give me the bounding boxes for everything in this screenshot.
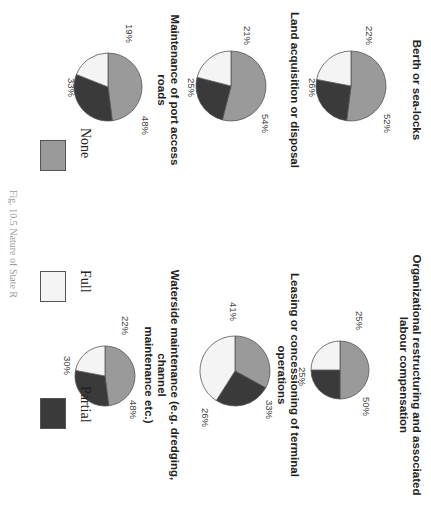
- pct-none: 48%: [128, 400, 139, 419]
- pie-panel-roads: Maintenance of port access roads 48% 19%…: [51, 6, 181, 174]
- pct-partial: 25%: [186, 78, 197, 97]
- legend-swatch-none: [40, 140, 66, 171]
- pct-full: 22%: [364, 26, 375, 45]
- pct-partial: 33%: [66, 78, 77, 97]
- pie-chart: [310, 340, 370, 400]
- panel-title: Leasing or concessioning of terminal ope…: [275, 250, 301, 500]
- pct-none: 50%: [361, 397, 372, 416]
- pie-chart: [195, 50, 267, 122]
- pct-partial: 26%: [307, 78, 318, 97]
- chart-canvas: Berth or sea-locks 52% 22% 26% Organizat…: [0, 0, 431, 506]
- legend-label-partial: Partial: [77, 386, 93, 423]
- pie-slice-none: [105, 346, 135, 406]
- figure-caption: Fig. 10.5 Nature of State R: [8, 190, 19, 298]
- pie-slice-partial: [311, 370, 340, 399]
- pct-full: 22%: [120, 316, 131, 335]
- pct-partial: 26%: [200, 408, 211, 427]
- pie-panel-leasing: Leasing or concessioning of terminal ope…: [171, 250, 301, 500]
- pie-slice-partial: [316, 79, 351, 120]
- legend-label-none: None: [77, 128, 93, 158]
- legend-label-full: Full: [77, 270, 93, 293]
- pct-full: 25%: [354, 311, 365, 330]
- pie-slice-none: [108, 53, 142, 121]
- pie-chart: [315, 50, 387, 122]
- pie-chart: [199, 335, 271, 407]
- panel-title: Maintenance of port access roads: [155, 6, 181, 174]
- panel-title: Land acquisition or disposal: [288, 6, 301, 174]
- panel-title: Berth or sea-locks: [410, 6, 423, 174]
- pct-full: 41%: [228, 302, 239, 321]
- pie-slice-full: [317, 51, 351, 86]
- pie-slice-full: [311, 341, 340, 370]
- pie-panel-waterside: Waterside maintenance (e.g. dredging, ch…: [51, 250, 181, 500]
- pct-full: 21%: [242, 26, 253, 45]
- pie-chart: [73, 52, 143, 122]
- legend-swatch-full: [40, 271, 66, 302]
- panel-title: Organizational restructuring and associa…: [397, 250, 423, 500]
- pie-panel-berth: Berth or sea-locks 52% 22% 26%: [293, 6, 423, 174]
- pie-slice-full: [76, 346, 105, 376]
- panel-title: Waterside maintenance (e.g. dredging, ch…: [142, 250, 181, 500]
- pie-panel-organizational: Organizational restructuring and associa…: [293, 250, 423, 500]
- legend-swatch-partial: [40, 398, 66, 429]
- pct-partial: 30%: [62, 356, 73, 375]
- pct-none: 33%: [264, 400, 275, 419]
- pie-slice-none: [340, 341, 369, 399]
- pct-none: 52%: [382, 114, 393, 133]
- pct-full: 19%: [124, 24, 135, 43]
- pie-slice-none: [347, 51, 386, 121]
- pie-panel-land: Land acquisition or disposal 54% 21% 25%: [171, 6, 301, 174]
- pct-none: 48%: [140, 116, 151, 135]
- pct-none: 54%: [260, 114, 271, 133]
